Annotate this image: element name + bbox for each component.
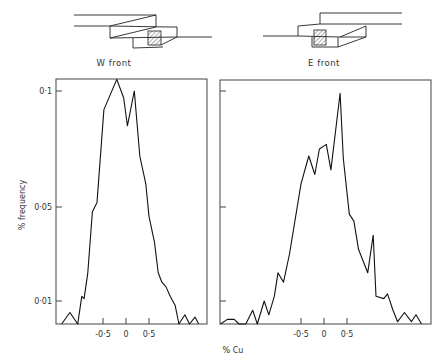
y-tick-label: 0·1 — [39, 87, 52, 96]
panel-caption-w: W front — [97, 58, 132, 68]
e-front-fault-sketch-icon — [263, 13, 402, 47]
panel-caption-e: E front — [308, 58, 340, 68]
x-tick-label: 0·5 — [341, 330, 354, 339]
w-front-fault-sketch-icon — [74, 15, 212, 48]
x-tick-label: -0·5 — [95, 330, 111, 339]
y-tick-label: 0·01 — [34, 297, 52, 306]
y-axis-ticks: 0·10·050·01 — [34, 87, 226, 306]
w-front-frequency-line — [62, 79, 199, 324]
y-tick-label: 0·05 — [34, 203, 52, 212]
x-tick-label: 0 — [321, 330, 326, 339]
x-tick-label: 0 — [123, 330, 128, 339]
e-front-frequency-line — [221, 93, 422, 324]
w-front-plot-area — [56, 79, 207, 324]
x-tick-label: 0·5 — [143, 330, 156, 339]
e-front-plot-area — [220, 80, 431, 324]
x-tick-label: -0·5 — [293, 330, 309, 339]
figure: W front E front 0·10·050·01 -0·500·5-0·5… — [0, 0, 442, 362]
y-axis-label: % frequency — [18, 180, 27, 231]
x-axis-label: % Cu — [223, 346, 244, 355]
